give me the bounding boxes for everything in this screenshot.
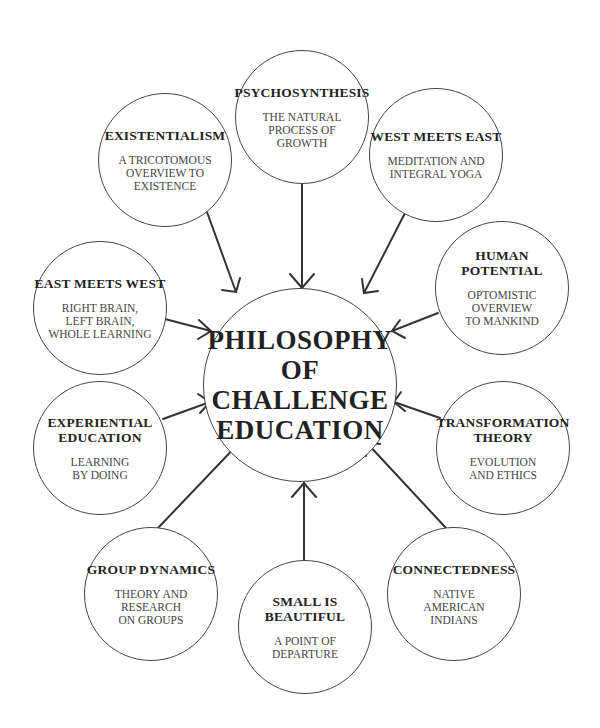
node-title: EXISTENTIALISM bbox=[105, 128, 226, 143]
node-title: PSYCHOSYNTHESIS bbox=[234, 85, 369, 100]
node-subtitle: A TRICOTOMOUS OVERVIEW TO EXISTENCE bbox=[118, 154, 211, 193]
node-title: CONNECTEDNESS bbox=[393, 562, 516, 577]
node-title: EAST MEETS WEST bbox=[35, 276, 166, 291]
node-subtitle: MEDITATION AND INTEGRAL YOGA bbox=[387, 155, 484, 181]
node-title: HUMAN POTENTIAL bbox=[461, 248, 542, 278]
node-subtitle: LEARNING BY DOING bbox=[71, 456, 130, 482]
node-west-meets-east: WEST MEETS EAST MEDITATION AND INTEGRAL … bbox=[369, 88, 503, 222]
node-title: SMALL IS BEAUTIFUL bbox=[265, 594, 346, 624]
node-experiential-education: EXPERIENTIAL EDUCATION LEARNING BY DOING bbox=[33, 381, 167, 515]
node-connectedness: CONNECTEDNESS NATIVE AMERICAN INDIANS bbox=[387, 527, 521, 661]
node-subtitle: THEORY AND RESEARCH ON GROUPS bbox=[115, 588, 188, 627]
arrow-transformation bbox=[394, 402, 440, 418]
node-title: WEST MEETS EAST bbox=[370, 129, 501, 144]
node-small-is-beautiful: SMALL IS BEAUTIFUL A POINT OF DEPARTURE bbox=[238, 560, 372, 694]
arrow-existentialism bbox=[207, 212, 236, 292]
node-group-dynamics: GROUP DYNAMICS THEORY AND RESEARCH ON GR… bbox=[84, 527, 218, 661]
arrow-connectedness bbox=[366, 442, 446, 528]
arrow-group-dynamics bbox=[158, 442, 240, 528]
node-existentialism: EXISTENTIALISM A TRICOTOMOUS OVERVIEW TO… bbox=[98, 93, 232, 227]
node-subtitle: NATIVE AMERICAN INDIANS bbox=[423, 588, 484, 627]
node-title: TRANSFORMATION THEORY bbox=[436, 415, 569, 445]
node-east-meets-west: EAST MEETS WEST RIGHT BRAIN, LEFT BRAIN,… bbox=[33, 241, 167, 375]
node-psychosynthesis: PSYCHOSYNTHESIS THE NATURAL PROCESS OF G… bbox=[235, 50, 369, 184]
node-subtitle: THE NATURAL PROCESS OF GROWTH bbox=[263, 111, 342, 150]
center-title: PHILOSOPHY OF CHALLENGE EDUCATION bbox=[207, 325, 392, 445]
node-transformation-theory: TRANSFORMATION THEORY EVOLUTION AND ETHI… bbox=[436, 381, 570, 515]
node-subtitle: OPTOMISTIC OVERVIEW TO MANKIND bbox=[465, 289, 539, 328]
center-node-philosophy: PHILOSOPHY OF CHALLENGE EDUCATION bbox=[203, 288, 397, 482]
node-human-potential: HUMAN POTENTIAL OPTOMISTIC OVERVIEW TO M… bbox=[435, 221, 569, 355]
node-subtitle: A POINT OF DEPARTURE bbox=[272, 635, 338, 661]
node-subtitle: EVOLUTION AND ETHICS bbox=[469, 456, 537, 482]
node-subtitle: RIGHT BRAIN, LEFT BRAIN, WHOLE LEARNING bbox=[48, 302, 151, 341]
node-title: EXPERIENTIAL EDUCATION bbox=[47, 415, 152, 445]
node-title: GROUP DYNAMICS bbox=[87, 562, 215, 577]
arrow-west-meets-east bbox=[364, 213, 405, 293]
